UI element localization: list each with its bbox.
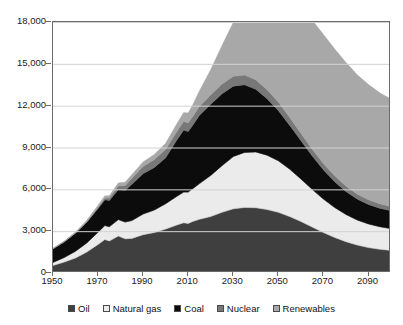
y-tick-mark — [46, 188, 51, 189]
x-tick-label: 1990 — [132, 275, 153, 286]
legend-label: Renewables — [283, 303, 335, 314]
x-tick-label: 2050 — [267, 275, 288, 286]
x-tick-mark — [368, 272, 369, 276]
legend-item-coal[interactable]: Coal — [174, 303, 204, 314]
y-axis: 03,0006,0009,00012,00015,00018,000 — [0, 0, 46, 293]
legend-label: Coal — [184, 303, 204, 314]
legend-item-nuclear[interactable]: Nuclear — [217, 303, 260, 314]
legend-label: Oil — [78, 303, 90, 314]
x-tick-mark — [142, 272, 143, 276]
legend-swatch-icon — [217, 305, 224, 312]
x-tick-mark — [97, 272, 98, 276]
legend-swatch-icon — [273, 305, 280, 312]
y-tick-mark — [46, 147, 51, 148]
y-tick-mark — [46, 272, 51, 273]
y-tick-mark — [46, 105, 51, 106]
x-tick-mark — [322, 272, 323, 276]
plot-area — [52, 21, 390, 272]
y-tick-label: 18,000 — [17, 16, 46, 26]
y-tick-label: 12,000 — [17, 100, 46, 110]
legend-swatch-icon — [103, 305, 110, 312]
legend-item-renewables[interactable]: Renewables — [273, 303, 335, 314]
legend-label: Natural gas — [113, 303, 162, 314]
x-tick-mark — [277, 272, 278, 276]
y-tick-mark — [46, 21, 51, 22]
x-tick-label: 1950 — [41, 275, 62, 286]
y-tick-label: 6,000 — [22, 183, 46, 193]
legend-item-oil[interactable]: Oil — [68, 303, 90, 314]
legend-item-natural-gas[interactable]: Natural gas — [103, 303, 162, 314]
y-tick-label: 15,000 — [17, 58, 46, 68]
x-axis: 19501970199020102030205020702090 — [0, 275, 403, 291]
x-tick-label: 1970 — [87, 275, 108, 286]
y-tick-mark — [46, 63, 51, 64]
plot-frame — [52, 21, 390, 272]
legend-label: Nuclear — [227, 303, 260, 314]
chart-legend: Oil Natural gas Coal Nuclear Renewables — [0, 299, 403, 317]
chart-figure: 03,0006,0009,00012,00015,00018,000 19501… — [0, 0, 403, 325]
x-tick-label: 2030 — [222, 275, 243, 286]
y-tick-mark — [46, 230, 51, 231]
y-tick-label: 9,000 — [22, 142, 46, 152]
stacked-area-series — [53, 22, 390, 272]
legend-swatch-icon — [174, 305, 181, 312]
x-tick-label: 2070 — [312, 275, 333, 286]
x-tick-mark — [232, 272, 233, 276]
x-tick-label: 2010 — [177, 275, 198, 286]
x-tick-mark — [52, 272, 53, 276]
x-tick-label: 2090 — [357, 275, 378, 286]
y-tick-label: 3,000 — [22, 225, 46, 235]
legend-swatch-icon — [68, 305, 75, 312]
x-tick-mark — [187, 272, 188, 276]
